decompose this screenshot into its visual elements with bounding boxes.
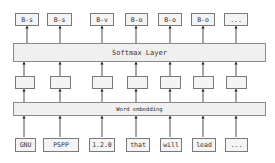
output-label-box: B-o <box>191 13 215 26</box>
input-token-box: ... <box>225 138 248 152</box>
input-token-box: will <box>160 138 182 152</box>
output-label-box: ... <box>224 13 248 26</box>
output-label-box: B-s <box>47 13 72 26</box>
output-label-box: B-s <box>15 13 39 26</box>
sequence-labeling-diagram: B-s B-s B-v B-o B-o B-o ... Softmax Laye… <box>0 0 275 163</box>
input-token-box: 1.2.0 <box>89 138 115 152</box>
hidden-unit-box <box>50 76 71 89</box>
hidden-unit-box <box>160 76 181 89</box>
input-token-box: GNU <box>15 138 36 152</box>
hidden-unit-box <box>193 76 214 89</box>
hidden-unit-box <box>226 76 247 89</box>
output-label-box: B-v <box>90 13 114 26</box>
hidden-unit-box <box>15 76 35 89</box>
input-token-box: lead <box>192 138 216 152</box>
input-token-box: PSPP <box>43 138 79 152</box>
hidden-unit-box <box>92 76 113 89</box>
input-token-box: that <box>126 138 150 152</box>
softmax-layer: Softmax Layer <box>13 43 266 62</box>
output-label-box: B-o <box>158 13 182 26</box>
output-label-box: B-o <box>125 13 148 26</box>
hidden-unit-box <box>127 76 148 89</box>
word-embedding-layer: Word embedding <box>13 102 266 116</box>
